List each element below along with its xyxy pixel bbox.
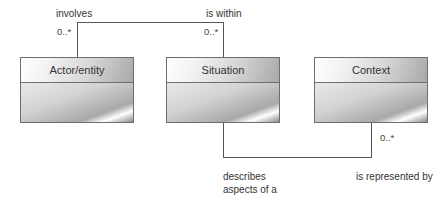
class-actor-entity-name: Actor/entity (21, 58, 133, 83)
label-describes-line1: describes (223, 171, 266, 183)
class-actor-entity[interactable]: Actor/entity (20, 57, 134, 123)
label-is-within: is within (206, 8, 242, 20)
label-involves: involves (56, 8, 92, 20)
multiplicity-situation-top: 0..* (204, 26, 218, 37)
assoc-line-actor-vertical (77, 22, 78, 57)
class-actor-entity-body (21, 83, 133, 122)
label-describes-line2: aspects of a (223, 184, 277, 196)
class-context-name: Context (315, 58, 427, 83)
class-context-body (315, 83, 427, 122)
multiplicity-context: 0..* (380, 132, 394, 143)
class-situation-name: Situation (167, 58, 279, 83)
assoc-line-situation-vertical (223, 22, 224, 57)
label-is-represented-by: is represented by (356, 171, 433, 183)
assoc-line-bottom-horizontal (223, 157, 372, 158)
assoc-line-situation-bottom-vertical (223, 123, 224, 158)
class-context[interactable]: Context (314, 57, 428, 123)
multiplicity-actor: 0..* (57, 26, 71, 37)
class-situation[interactable]: Situation (166, 57, 280, 123)
assoc-line-top-horizontal (77, 22, 224, 23)
assoc-line-context-bottom-vertical (371, 123, 372, 158)
class-situation-body (167, 83, 279, 122)
